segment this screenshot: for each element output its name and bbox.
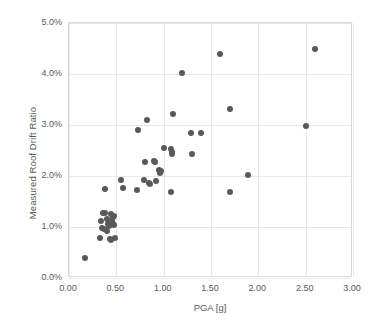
data-point — [179, 70, 185, 76]
x-tick-label: 3.00 — [327, 283, 377, 293]
y-tick-label: 2.0% — [6, 170, 68, 180]
gridline-vertical — [211, 23, 212, 276]
x-tick-label: 0.00 — [43, 283, 93, 293]
y-tick-label: 4.0% — [6, 68, 68, 78]
data-point — [168, 189, 174, 195]
data-point — [169, 151, 175, 157]
scatter-chart: Measured Roof Drift Ratio 0.0%1.0%2.0%3.… — [0, 0, 378, 326]
data-point — [102, 186, 108, 192]
data-point — [144, 117, 150, 123]
data-point — [227, 106, 233, 112]
data-point — [153, 178, 159, 184]
y-tick-label: 1.0% — [6, 221, 68, 231]
gridline-vertical — [69, 23, 70, 276]
data-point — [217, 51, 223, 57]
plot-area — [68, 22, 352, 277]
data-point — [97, 235, 103, 241]
gridline-horizontal — [69, 125, 351, 126]
data-point — [161, 145, 167, 151]
data-point — [245, 172, 251, 178]
data-point — [188, 130, 194, 136]
gridline-horizontal — [69, 74, 351, 75]
data-point — [303, 123, 309, 129]
data-point — [152, 159, 158, 165]
gridline-vertical — [306, 23, 307, 276]
data-point — [198, 130, 204, 136]
data-point — [142, 159, 148, 165]
y-tick-label: 3.0% — [6, 119, 68, 129]
gridline-vertical — [258, 23, 259, 276]
y-axis-tick-labels: 0.0%1.0%2.0%3.0%4.0%5.0% — [0, 22, 68, 277]
gridline-horizontal — [69, 23, 351, 24]
data-point — [82, 255, 88, 261]
x-tick-label: 2.00 — [232, 283, 282, 293]
data-point — [108, 211, 114, 217]
gridline-horizontal — [69, 176, 351, 177]
data-point — [227, 189, 233, 195]
data-point — [134, 187, 140, 193]
data-point — [109, 218, 115, 224]
x-tick-label: 1.50 — [185, 283, 235, 293]
data-point — [120, 185, 126, 191]
x-tick-label: 1.00 — [138, 283, 188, 293]
y-tick-label: 5.0% — [6, 17, 68, 27]
data-point — [170, 111, 176, 117]
x-axis-tick-labels: 0.000.501.001.502.002.503.00 — [68, 283, 352, 297]
gridline-vertical — [353, 23, 354, 276]
x-axis-title: PGA [g] — [68, 302, 352, 313]
data-point — [112, 235, 118, 241]
x-tick-label: 0.50 — [90, 283, 140, 293]
x-tick-label: 2.50 — [280, 283, 330, 293]
y-tick-label: 0.0% — [6, 272, 68, 282]
data-point — [104, 228, 110, 234]
gridline-horizontal — [69, 278, 351, 279]
data-point — [189, 151, 195, 157]
data-point — [312, 46, 318, 52]
data-point — [135, 127, 141, 133]
data-point — [118, 177, 124, 183]
